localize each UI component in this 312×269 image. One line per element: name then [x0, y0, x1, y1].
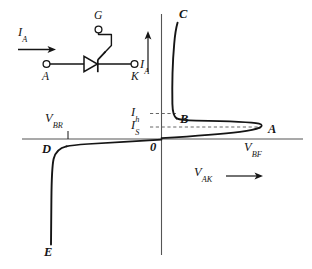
anode-terminal-node — [43, 61, 50, 68]
y-axis-label: IA — [140, 58, 149, 74]
scr-triangle — [84, 56, 97, 71]
anode-terminal-label: A — [42, 71, 49, 83]
point-e-label: E — [44, 246, 52, 259]
figure-canvas — [0, 0, 312, 269]
forward-breakover-voltage-label: VBF — [244, 141, 262, 157]
point-b-label: B — [180, 113, 188, 126]
latching-current-label: IS — [131, 119, 139, 135]
anode-current-arrow — [18, 46, 56, 53]
point-c-label: C — [179, 8, 187, 21]
characteristic-curve — [51, 23, 262, 245]
gate-terminal-label: G — [94, 10, 102, 22]
thyristor-vi-characteristic-figure: IA A K G IA VAK 0 Ih IS VBR VBF A B C D … — [0, 0, 312, 269]
origin-label: 0 — [150, 141, 156, 154]
anode-current-label: IA — [18, 26, 27, 42]
x-axis-label: VAK — [194, 166, 212, 182]
point-a-label: A — [268, 123, 276, 136]
thyristor-circuit — [18, 26, 138, 72]
cathode-terminal-node — [131, 61, 138, 68]
x-axis-arrow — [226, 173, 263, 180]
curve-reverse-breakdown — [51, 146, 67, 244]
gate-terminal-node — [95, 26, 102, 33]
curve-forward-conduction — [172, 23, 177, 119]
cathode-terminal-label: K — [131, 71, 139, 83]
reverse-breakdown-voltage-label: VBR — [45, 112, 63, 128]
gate-wire — [99, 33, 112, 52]
curve-forward-blocking — [162, 128, 260, 139]
axes-group — [22, 14, 303, 255]
point-d-label: D — [42, 143, 51, 156]
curve-reverse-blocking — [67, 140, 162, 147]
curve-negative-resistance — [177, 118, 262, 127]
